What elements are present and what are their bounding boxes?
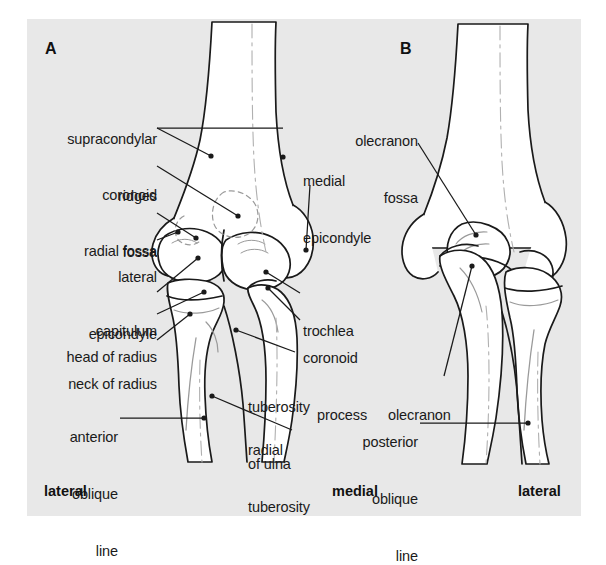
label-coronoid-fossa-line1: coronoid xyxy=(0,186,157,205)
label-olecranon-fossa-line1: olecranon xyxy=(260,132,418,151)
label-anterior-oblique-line-line1: anterior xyxy=(0,428,118,447)
label-olecranon-fossa: olecranon fossa xyxy=(260,94,418,246)
panel-letter-a: A xyxy=(45,40,57,58)
label-posterior-oblique-line-line3: line xyxy=(300,547,418,565)
orientation-lateral-right: lateral xyxy=(518,483,561,499)
orientation-medial: medial xyxy=(332,483,378,499)
label-posterior-oblique-line-line1: posterior xyxy=(300,433,418,452)
panel-letter-b: B xyxy=(400,40,412,58)
label-posterior-oblique-line: posterior oblique line xyxy=(300,395,418,565)
label-supracondylar-ridges-line1: supracondylar xyxy=(0,130,157,149)
label-anterior-oblique-line-line3: line xyxy=(0,542,118,561)
label-olecranon-fossa-line2: fossa xyxy=(260,189,418,208)
orientation-lateral-left: lateral xyxy=(44,483,87,499)
label-anterior-oblique-line: anterior oblique line xyxy=(0,390,118,565)
